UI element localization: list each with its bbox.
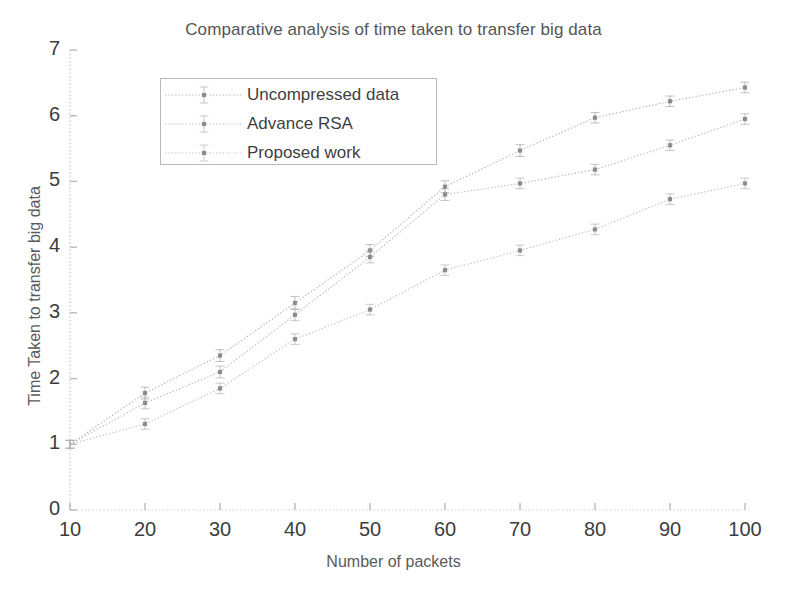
legend-item-3[interactable]: Proposed work	[161, 138, 438, 167]
data-point	[593, 227, 597, 231]
data-point	[218, 386, 222, 390]
data-point	[293, 301, 297, 305]
x-axis-label: Number of packets	[0, 553, 787, 571]
legend-item-2[interactable]: Advance RSA	[161, 109, 438, 138]
data-point	[218, 370, 222, 374]
data-point	[743, 117, 747, 121]
legend-marker-icon	[165, 141, 243, 165]
legend-marker-icon	[165, 112, 243, 136]
legend-data-point	[202, 150, 206, 154]
data-point	[593, 116, 597, 120]
chart-figure: Comparative analysis of time taken to tr…	[0, 0, 787, 598]
data-point	[443, 268, 447, 272]
y-tick-label-7: 7	[20, 38, 60, 58]
y-tick-label-3: 3	[20, 301, 60, 321]
data-point	[668, 99, 672, 103]
series-line-3	[70, 183, 745, 444]
data-point	[143, 422, 147, 426]
data-point	[668, 143, 672, 147]
data-point	[518, 248, 522, 252]
x-tick-label-100: 100	[715, 519, 775, 539]
chart-legend: Uncompressed dataAdvance RSAProposed wor…	[160, 78, 437, 165]
data-point	[593, 168, 597, 172]
x-tick-label-90: 90	[640, 519, 700, 539]
data-point	[743, 85, 747, 89]
legend-data-point	[202, 121, 206, 125]
legend-item-1[interactable]: Uncompressed data	[161, 80, 438, 109]
y-axis-label: Time Taken to transfer big data	[26, 146, 44, 446]
x-tick-label-50: 50	[340, 519, 400, 539]
data-point	[743, 181, 747, 185]
x-tick-label-40: 40	[265, 519, 325, 539]
legend-data-point	[202, 92, 206, 96]
x-tick-label-30: 30	[190, 519, 250, 539]
series-3	[66, 178, 750, 448]
data-point	[293, 313, 297, 317]
y-tick-label-1: 1	[20, 432, 60, 452]
x-tick-label-70: 70	[490, 519, 550, 539]
data-point	[218, 353, 222, 357]
data-point	[293, 337, 297, 341]
data-point	[143, 401, 147, 405]
data-point	[443, 185, 447, 189]
data-point	[368, 307, 372, 311]
data-point	[143, 391, 147, 395]
data-point	[518, 181, 522, 185]
y-tick-label-4: 4	[20, 235, 60, 255]
x-tick-label-80: 80	[565, 519, 625, 539]
series-line-2	[70, 119, 745, 444]
legend-label: Advance RSA	[247, 114, 353, 134]
legend-label: Proposed work	[247, 143, 360, 163]
x-tick-label-10: 10	[40, 519, 100, 539]
y-tick-label-6: 6	[20, 104, 60, 124]
x-tick-label-60: 60	[415, 519, 475, 539]
data-point	[668, 197, 672, 201]
legend-label: Uncompressed data	[247, 85, 399, 105]
y-tick-label-5: 5	[20, 169, 60, 189]
data-point	[368, 255, 372, 259]
y-tick-label-2: 2	[20, 367, 60, 387]
chart-title: Comparative analysis of time taken to tr…	[0, 20, 787, 40]
data-point	[518, 148, 522, 152]
y-tick-label-0: 0	[20, 498, 60, 518]
x-tick-label-20: 20	[115, 519, 175, 539]
data-point	[443, 192, 447, 196]
legend-marker-icon	[165, 83, 243, 107]
